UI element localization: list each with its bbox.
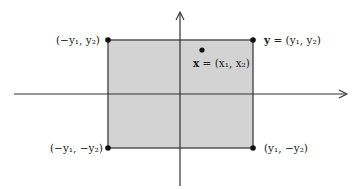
interior-point: [199, 47, 204, 52]
corner-point-bottom-left: [105, 145, 111, 151]
diagram-canvas: [0, 0, 361, 189]
corner-point-bottom-right: [250, 145, 256, 151]
label-interior: x = (x₁, x₂): [193, 58, 250, 69]
label-top-right: y = (y₁, y₂): [264, 35, 321, 46]
corner-point-top-right: [250, 37, 256, 43]
label-bottom-left: (−y₁, −y₂): [50, 143, 103, 154]
label-bottom-right: (y₁, −y₂): [264, 143, 308, 154]
label-top-right-coords: = (y₁, y₂): [270, 34, 321, 46]
label-top-left: (−y₁, y₂): [56, 35, 100, 46]
label-interior-coords: = (x₁, x₂): [199, 57, 250, 69]
corner-point-top-left: [105, 37, 111, 43]
